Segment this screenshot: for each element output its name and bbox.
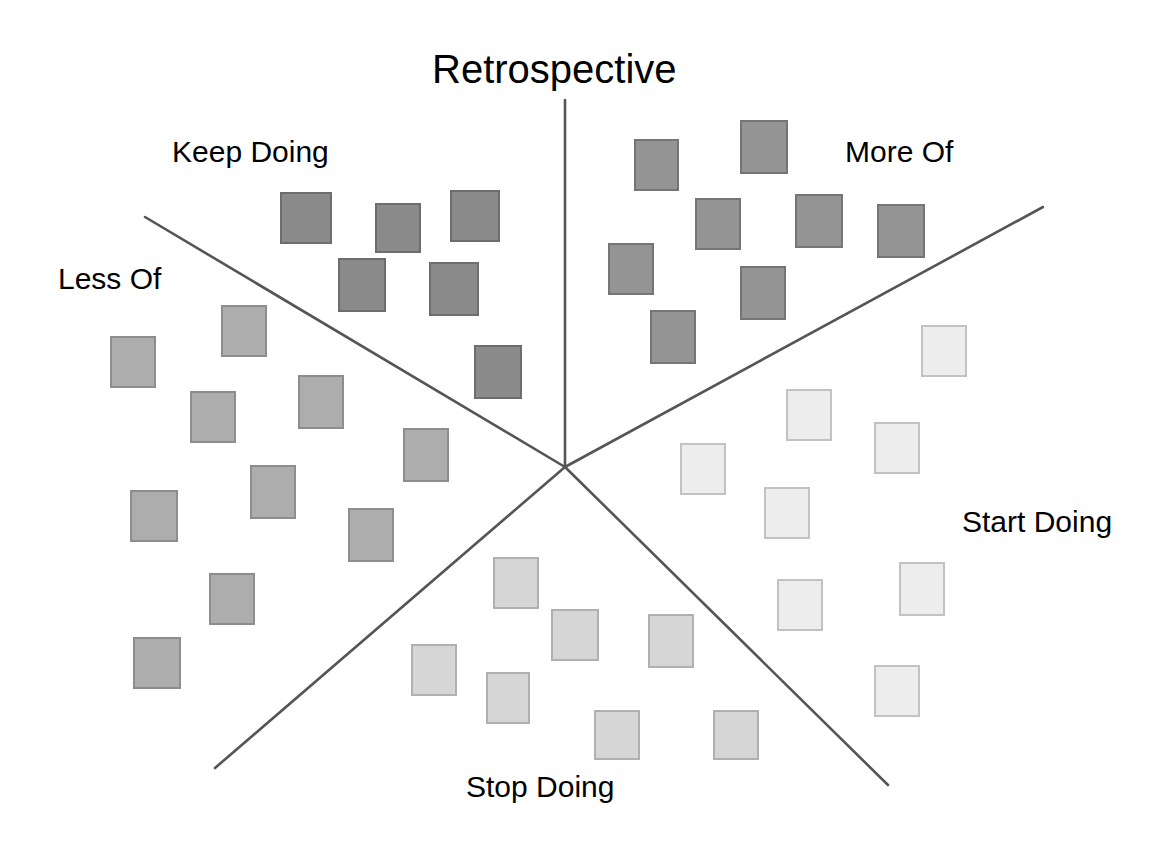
sticky-note-start-doing[interactable] [764,487,810,539]
sticky-note-start-doing[interactable] [899,562,945,616]
sticky-note-more-of[interactable] [877,204,925,258]
sticky-note-start-doing[interactable] [921,325,967,377]
sticky-note-more-of[interactable] [608,243,654,295]
sticky-note-keep-doing[interactable] [450,190,500,242]
sticky-note-start-doing[interactable] [874,665,920,717]
sticky-note-more-of[interactable] [634,139,679,191]
sticky-note-stop-doing[interactable] [411,644,457,696]
sticky-note-more-of[interactable] [795,194,843,248]
sticky-note-less-of[interactable] [221,305,267,357]
sticky-note-stop-doing[interactable] [493,557,539,609]
sticky-note-less-of[interactable] [348,508,394,562]
sticky-note-stop-doing[interactable] [713,710,759,760]
sector-label-keep-doing: Keep Doing [172,135,329,169]
sticky-note-keep-doing[interactable] [375,203,421,253]
sticky-note-more-of[interactable] [740,266,786,320]
sticky-note-less-of[interactable] [133,637,181,689]
sticky-note-stop-doing[interactable] [486,672,530,724]
sector-label-less-of: Less Of [58,262,161,296]
retrospective-board: Retrospective Keep DoingMore OfLess OfSt… [0,0,1165,854]
sticky-note-more-of[interactable] [650,310,696,364]
sticky-note-less-of[interactable] [298,375,344,429]
sticky-note-less-of[interactable] [190,391,236,443]
sticky-note-start-doing[interactable] [680,443,726,495]
sticky-note-start-doing[interactable] [786,389,832,441]
sticky-note-stop-doing[interactable] [594,710,640,760]
sticky-note-keep-doing[interactable] [280,192,332,244]
sticky-note-more-of[interactable] [695,198,741,250]
page-title: Retrospective [432,47,677,92]
sticky-note-stop-doing[interactable] [648,614,694,668]
sector-divider-lines [0,0,1165,854]
sticky-note-more-of[interactable] [740,120,788,174]
sticky-note-keep-doing[interactable] [474,345,522,399]
sticky-note-start-doing[interactable] [777,579,823,631]
sector-label-stop-doing: Stop Doing [466,770,614,804]
sticky-note-less-of[interactable] [209,573,255,625]
sector-label-start-doing: Start Doing [962,505,1112,539]
sticky-note-less-of[interactable] [250,465,296,519]
sticky-note-start-doing[interactable] [874,422,920,474]
sticky-note-keep-doing[interactable] [429,262,479,316]
sticky-note-less-of[interactable] [130,490,178,542]
sticky-note-less-of[interactable] [403,428,449,482]
sticky-note-stop-doing[interactable] [551,609,599,661]
sector-label-more-of: More Of [845,135,953,169]
sticky-note-keep-doing[interactable] [338,258,386,312]
sticky-note-less-of[interactable] [110,336,156,388]
